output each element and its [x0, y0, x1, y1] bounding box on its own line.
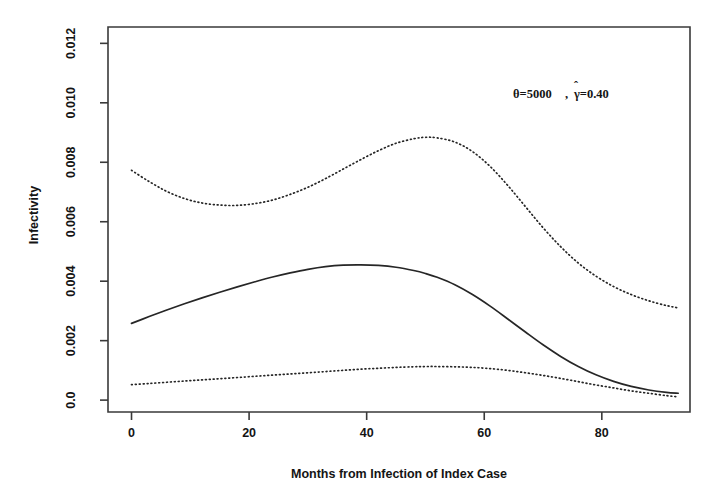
chart-canvas: 0.00.0020.0040.0060.0080.0100.012 020406…	[0, 0, 710, 503]
y-tick-label: 0.0	[64, 391, 78, 408]
y-tick-label: 0.002	[64, 325, 78, 356]
y-tick-label: 0.004	[64, 266, 78, 297]
y-axis-title: Infectivity	[27, 186, 41, 244]
annotation-separator: ,	[565, 87, 568, 101]
x-tick-label: 0	[128, 426, 135, 440]
annotation-theta-label: θ=5000	[513, 87, 552, 101]
y-tick-label: 0.006	[64, 206, 78, 237]
x-tick-label: 40	[360, 426, 374, 440]
y-tick-label: 0.012	[64, 28, 78, 59]
x-tick-label: 60	[477, 426, 491, 440]
infectivity-chart-figure: 0.00.0020.0040.0060.0080.0100.012 020406…	[0, 0, 710, 503]
x-axis-title: Months from Infection of Index Case	[291, 467, 507, 481]
x-tick-label: 20	[242, 426, 256, 440]
y-tick-label: 0.008	[64, 147, 78, 178]
annotation-gamma-label: γ=0.40	[573, 87, 609, 101]
x-tick-label: 80	[595, 426, 609, 440]
y-tick-label: 0.010	[64, 87, 78, 118]
